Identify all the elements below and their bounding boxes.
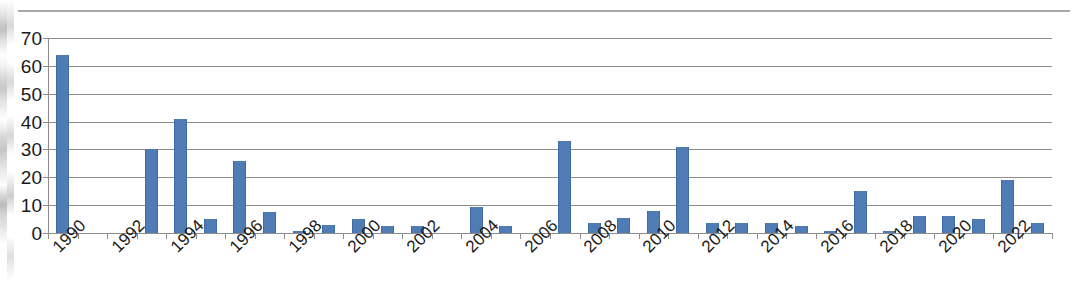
gridline	[48, 149, 1052, 150]
y-axis-tick-label: 50	[4, 85, 42, 104]
bar	[233, 161, 246, 233]
gridline	[48, 66, 1052, 67]
chart-page: 010203040506070 199019921994199619982000…	[0, 0, 1074, 298]
plot-area	[48, 38, 1052, 233]
y-axis-tick-label: 60	[4, 57, 42, 76]
x-axis-tick-mark	[166, 233, 167, 239]
bar	[174, 119, 187, 233]
bar	[676, 147, 689, 233]
page-top-rule	[18, 10, 1070, 12]
gridline	[48, 38, 1052, 39]
x-axis-tick-mark	[520, 233, 521, 239]
x-axis-tick-mark	[875, 233, 876, 239]
x-axis-tick-mark	[698, 233, 699, 239]
x-axis-tick-mark	[816, 233, 817, 239]
bar	[56, 55, 69, 233]
x-axis-tick-mark	[580, 233, 581, 239]
x-axis-tick-mark	[639, 233, 640, 239]
gridline	[48, 122, 1052, 123]
x-axis-tick-mark	[993, 233, 994, 239]
x-axis-tick-mark	[284, 233, 285, 239]
x-axis-tick-mark	[757, 233, 758, 239]
x-axis-tick-mark	[107, 233, 108, 239]
y-axis-tick-label: 10	[4, 196, 42, 215]
y-axis-tick-label: 40	[4, 113, 42, 132]
bar	[145, 149, 158, 233]
x-axis-tick-mark	[1052, 233, 1053, 239]
gridline	[48, 205, 1052, 206]
gridline	[48, 177, 1052, 178]
x-axis-tick-mark	[402, 233, 403, 239]
x-axis-tick-mark	[48, 233, 49, 239]
x-axis-tick-mark	[343, 233, 344, 239]
y-axis-tick-label: 20	[4, 168, 42, 187]
x-axis-tick-mark	[934, 233, 935, 239]
gridline	[48, 94, 1052, 95]
y-axis-tick-label: 30	[4, 140, 42, 159]
x-axis-tick-mark	[225, 233, 226, 239]
bar	[558, 141, 571, 233]
x-axis-tick-mark	[461, 233, 462, 239]
y-axis-tick-label: 70	[4, 29, 42, 48]
y-axis-tick-label: 0	[4, 224, 42, 243]
